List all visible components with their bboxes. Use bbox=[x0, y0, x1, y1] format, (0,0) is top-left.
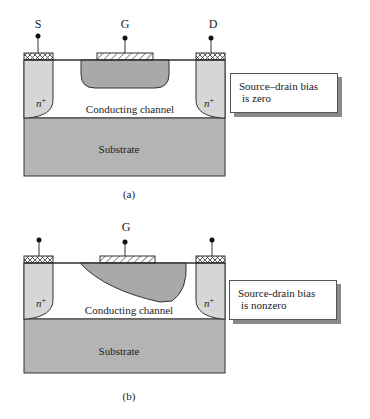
callout-bias-zero: Source–drain bias is zero bbox=[230, 73, 338, 113]
caption-a: (a) bbox=[123, 188, 136, 201]
panel-a: S G D n+ n+ Conducting channel Substrate… bbox=[24, 17, 225, 201]
source-terminal-dot bbox=[37, 238, 42, 243]
drain-n-region bbox=[196, 263, 225, 319]
substrate-label: Substrate bbox=[99, 143, 140, 155]
panel-b: G n+ n+ Conducting channel Substrate (b) bbox=[24, 220, 225, 403]
drain-terminal-dot bbox=[209, 36, 214, 41]
drain-terminal-dot bbox=[210, 238, 215, 243]
drain-contact bbox=[196, 53, 225, 60]
source-n-region bbox=[24, 263, 53, 319]
gate-label: G bbox=[122, 220, 131, 234]
source-contact bbox=[24, 53, 53, 60]
source-contact bbox=[24, 256, 53, 263]
depletion-region bbox=[81, 60, 169, 88]
source-n-region bbox=[24, 60, 53, 118]
callout-line2: is zero bbox=[239, 92, 329, 104]
source-label: S bbox=[35, 17, 42, 31]
gate-electrode bbox=[100, 256, 155, 263]
callout-bias-nonzero: Source-drain bias is nonzero bbox=[229, 280, 337, 320]
channel-label: Conducting channel bbox=[86, 103, 174, 115]
gate-electrode bbox=[97, 53, 153, 60]
callout-line1: Source-drain bias bbox=[238, 287, 328, 299]
callout-line2: is nonzero bbox=[238, 299, 328, 311]
drain-n-region bbox=[196, 60, 225, 118]
source-terminal-dot bbox=[36, 34, 41, 39]
caption-b: (b) bbox=[123, 390, 136, 403]
substrate-label: Substrate bbox=[99, 345, 140, 357]
gate-label: G bbox=[121, 17, 130, 31]
gate-terminal-dot bbox=[123, 36, 128, 41]
channel-label: Conducting channel bbox=[85, 304, 173, 316]
gate-terminal-dot bbox=[123, 240, 128, 245]
drain-contact bbox=[196, 256, 225, 263]
mosfet-diagram: S G D n+ n+ Conducting channel Substrate… bbox=[0, 0, 370, 419]
callout-line1: Source–drain bias bbox=[239, 80, 329, 92]
drain-label: D bbox=[209, 17, 218, 31]
